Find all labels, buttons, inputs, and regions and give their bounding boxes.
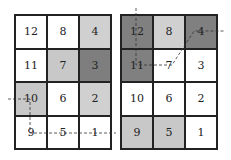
left-grid: 12 8 4 11 7 3 10 6 2 9 5 1 <box>14 14 112 150</box>
left-cell-2: 2 <box>79 82 111 116</box>
left-cell-12: 12 <box>15 15 47 49</box>
right-cell-10: 10 <box>121 82 153 116</box>
right-cell-11: 11 <box>121 49 153 83</box>
left-cell-6: 6 <box>47 82 79 116</box>
right-cell-4: 4 <box>185 15 217 49</box>
left-cell-10: 10 <box>15 82 47 116</box>
left-cell-8: 8 <box>47 15 79 49</box>
right-cell-9: 9 <box>121 116 153 150</box>
right-cell-7: 7 <box>153 49 185 83</box>
left-cell-11: 11 <box>15 49 47 83</box>
right-cell-1: 1 <box>185 116 217 150</box>
left-cell-5: 5 <box>47 116 79 150</box>
left-cell-9: 9 <box>15 116 47 150</box>
left-cell-4: 4 <box>79 15 111 49</box>
right-cell-8: 8 <box>153 15 185 49</box>
right-cell-6: 6 <box>153 82 185 116</box>
right-cell-3: 3 <box>185 49 217 83</box>
right-cell-5: 5 <box>153 116 185 150</box>
right-cell-12: 12 <box>121 15 153 49</box>
left-cell-3: 3 <box>79 49 111 83</box>
left-cell-7: 7 <box>47 49 79 83</box>
right-cell-2: 2 <box>185 82 217 116</box>
right-grid: 12 8 4 11 7 3 10 6 2 9 5 1 <box>120 14 218 150</box>
left-cell-1: 1 <box>79 116 111 150</box>
